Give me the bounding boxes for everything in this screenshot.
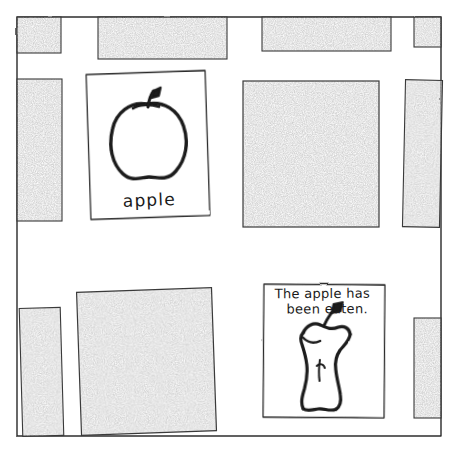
grey-block-top-right xyxy=(414,17,441,47)
grey-block-bottom-left xyxy=(19,307,64,436)
card-eaten-apple-caption-line-1: The apple has xyxy=(274,286,371,302)
grey-block-bottom-right xyxy=(414,318,441,418)
grey-block-center-large xyxy=(243,81,379,227)
grey-block-bottom-wide xyxy=(77,288,217,436)
grey-block-right-tall xyxy=(402,80,442,228)
sketch-scene: apple The apple has been eaten. xyxy=(0,0,459,454)
grey-block-top-left xyxy=(17,17,61,53)
grey-block-top-second xyxy=(98,17,227,59)
grey-block-top-third xyxy=(262,17,391,51)
card-eaten-apple[interactable]: The apple has been eaten. xyxy=(262,283,386,419)
paper-background xyxy=(0,0,459,454)
sketch-canvas: apple The apple has been eaten. xyxy=(0,0,459,454)
card-whole-apple-caption: apple xyxy=(122,189,176,211)
card-eaten-apple-caption-line-2: been eaten. xyxy=(286,301,367,316)
card-whole-apple[interactable]: apple xyxy=(86,70,210,219)
grey-block-left-tall xyxy=(17,79,62,221)
